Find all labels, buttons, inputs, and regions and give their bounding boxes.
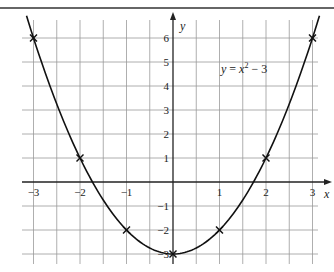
x-axis-arrow-icon [324, 179, 332, 185]
x-tick-label: −1 [121, 186, 133, 198]
equation-annotation: y = x2 − 3 [220, 61, 267, 76]
x-tick-label: 1 [217, 186, 223, 198]
y-tick-label: 3 [164, 104, 170, 116]
x-tick-label: 2 [263, 186, 269, 198]
y-axis-label: y [179, 19, 186, 33]
y-tick-label: 1 [164, 152, 170, 164]
x-tick-label: 3 [310, 186, 316, 198]
y-tick-label: −1 [157, 200, 169, 212]
x-tick-label: −2 [74, 186, 86, 198]
x-tick-label: −3 [28, 186, 40, 198]
y-tick-label: 2 [164, 128, 170, 140]
axes [22, 12, 332, 264]
x-axis-label: x [323, 187, 330, 201]
y-tick-label: 6 [164, 32, 170, 44]
chart: −3−2−1123654321−1−2−3 y = x2 − 3 x y [0, 0, 334, 272]
y-tick-label: −2 [157, 224, 169, 236]
y-tick-label: 5 [164, 56, 170, 68]
tick-labels: −3−2−1123654321−1−2−3 [28, 32, 316, 260]
y-tick-label: 4 [164, 80, 170, 92]
y-axis-arrow-icon [170, 12, 176, 20]
